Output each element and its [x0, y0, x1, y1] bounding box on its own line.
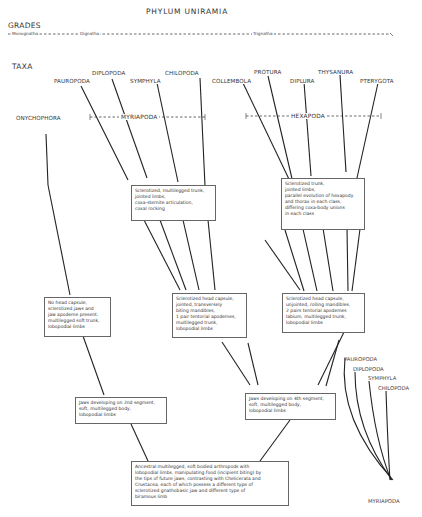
taxon-diplopoda: DIPLOPODA	[92, 70, 125, 76]
box-line: lobopodial limbs	[286, 320, 361, 326]
inset-diplopoda: DIPLOPODA	[353, 366, 384, 372]
grade-dignatha: Dignatha	[79, 31, 100, 36]
box-hexapod-head: Sclerotized head capsule, unjointed, rol…	[282, 293, 365, 333]
box-myriapod-trunk: Sclerotized, multilegged trunk, jointed …	[131, 185, 216, 221]
group-myriapoda: MYRIAPODA	[119, 114, 159, 120]
box-onychophora-head: No head capsule, sclerotized jaws and ja…	[44, 297, 111, 337]
taxon-symphyla: SYMPHYLA	[130, 78, 161, 84]
inset-symphyla: SYMPHYLA	[368, 375, 396, 381]
taxon-thysanura: THYSANURA	[318, 69, 353, 75]
grade-monognatha: Monognatha	[11, 31, 39, 36]
box-line: lobopodial limbs	[249, 408, 332, 414]
box-line: lobopodial limbs	[79, 412, 163, 418]
grades-heading: GRADES	[8, 21, 41, 30]
taxon-pauropoda: PAUROPODA	[54, 78, 90, 84]
grade-trignatha: Trignatha	[252, 31, 274, 36]
taxon-chilopoda: CHILOPODA	[165, 70, 199, 76]
box-line: in each class	[285, 211, 361, 217]
taxon-protura: PROTURA	[254, 69, 281, 75]
taxon-pterygota: PTERYGOTA	[360, 78, 394, 84]
inset-chilopoda: CHILOPODA	[378, 385, 409, 391]
box-ancestral: Ancestral multilegged, soft bodied arthr…	[131, 461, 289, 506]
diagram-title: PHYLUM UNIRAMIA	[146, 7, 228, 16]
taxa-heading: TAXA	[12, 62, 33, 71]
box-line: lobopodial limbs	[176, 326, 243, 332]
group-hexapoda: HEXAPODA	[289, 113, 327, 119]
inset-myriapoda: MYRIAPODA	[368, 498, 400, 504]
box-line: biramous limb	[135, 494, 285, 500]
taxon-onychophora: ONYCHOPHORA	[16, 115, 61, 121]
box-myriapod-head: Sclerotized head capsule, jointed, trans…	[172, 293, 247, 338]
box-jaws-4th-segment: Jaws developing on 4th segment, soft, mu…	[245, 393, 336, 420]
box-hexapod-trunk: Sclerotized trunk, jointed limbs, parall…	[281, 178, 365, 230]
box-line: coxal rocking	[135, 206, 212, 212]
taxon-collembola: COLLEMBOLA	[212, 78, 251, 84]
box-line: lobopodial limbs	[48, 324, 107, 330]
taxon-diplura: DIPLURA	[290, 78, 314, 84]
inset-pauropoda: PAUROPODA	[344, 356, 377, 362]
box-jaws-2nd-segment: Jaws developing on 2nd segment, soft, mu…	[75, 397, 167, 424]
